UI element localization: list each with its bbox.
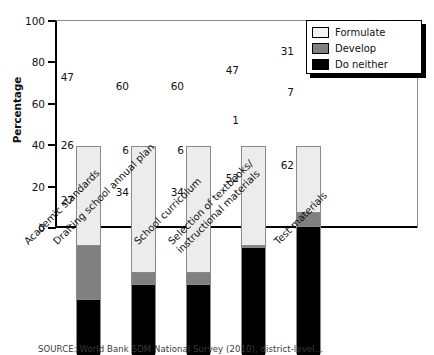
legend-label-develop: Develop bbox=[335, 43, 376, 54]
bar-drafting-school-annual-plan[interactable] bbox=[131, 146, 156, 354]
value-label-formulate-2: 60 bbox=[103, 80, 129, 92]
segment-do-neither bbox=[242, 247, 265, 355]
value-label-develop-3: 6 bbox=[158, 144, 184, 156]
value-label-formulate-5: 31 bbox=[268, 45, 294, 57]
legend: Formulate Develop Do neither bbox=[306, 20, 422, 74]
y-tick-label-40: 40 bbox=[5, 139, 45, 151]
segment-develop bbox=[77, 245, 100, 299]
source-note: SOURCE: World Bank SDM National Survey (… bbox=[38, 344, 323, 354]
y-tick-60 bbox=[48, 103, 56, 105]
value-label-formulate-3: 60 bbox=[158, 80, 184, 92]
legend-item-develop[interactable]: Develop bbox=[312, 41, 416, 56]
legend-swatch-do-neither-icon bbox=[312, 59, 329, 70]
legend-swatch-formulate-icon bbox=[312, 27, 329, 38]
y-tick-label-80: 80 bbox=[5, 56, 45, 68]
legend-swatch-develop-icon bbox=[312, 43, 329, 54]
segment-do-neither bbox=[297, 226, 320, 355]
value-label-do-neither-5: 62 bbox=[268, 159, 294, 171]
y-tick-label-60: 60 bbox=[5, 98, 45, 110]
value-label-develop-4: 1 bbox=[213, 114, 239, 126]
bar-school-curriculum[interactable] bbox=[186, 146, 211, 354]
legend-label-formulate: Formulate bbox=[335, 27, 386, 38]
segment-develop bbox=[187, 272, 210, 285]
y-tick-label-100: 100 bbox=[5, 15, 45, 27]
value-label-develop-5: 7 bbox=[268, 86, 294, 98]
legend-item-do-neither[interactable]: Do neither bbox=[312, 57, 416, 72]
value-label-develop-1: 26 bbox=[48, 139, 74, 151]
segment-develop bbox=[132, 272, 155, 285]
legend-item-formulate[interactable]: Formulate bbox=[312, 25, 416, 40]
y-tick-100 bbox=[48, 20, 56, 22]
value-label-develop-2: 6 bbox=[103, 144, 129, 156]
legend-label-do-neither: Do neither bbox=[335, 59, 388, 70]
value-label-formulate-1: 47 bbox=[48, 71, 74, 83]
bar-test-materials[interactable] bbox=[296, 146, 321, 354]
value-label-formulate-4: 47 bbox=[213, 64, 239, 76]
y-tick-label-20: 20 bbox=[5, 181, 45, 193]
y-tick-20 bbox=[48, 186, 56, 188]
y-tick-80 bbox=[48, 61, 56, 63]
